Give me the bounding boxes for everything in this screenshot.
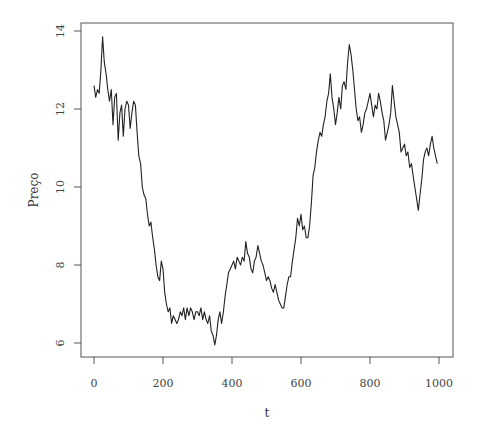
y-axis: 68101214 [54, 24, 81, 347]
plot-area-frame [81, 23, 453, 357]
y-axis-label: Preço [27, 173, 41, 208]
y-tick-label: 12 [54, 102, 67, 116]
x-tick-label: 0 [91, 377, 98, 390]
x-axis: 02004006008001000 [91, 357, 454, 390]
x-tick-label: 600 [291, 377, 312, 390]
x-tick-label: 1000 [425, 377, 453, 390]
price-series-line [94, 37, 437, 345]
x-tick-label: 200 [153, 377, 174, 390]
x-tick-label: 400 [222, 377, 243, 390]
x-tick-label: 800 [360, 377, 381, 390]
y-tick-label: 10 [54, 180, 67, 194]
y-tick-label: 8 [54, 262, 67, 269]
y-tick-label: 6 [54, 340, 67, 347]
line-chart: 68101214 02004006008001000 t Preço [0, 0, 478, 432]
x-axis-label: t [265, 406, 270, 420]
y-tick-label: 14 [54, 24, 67, 38]
